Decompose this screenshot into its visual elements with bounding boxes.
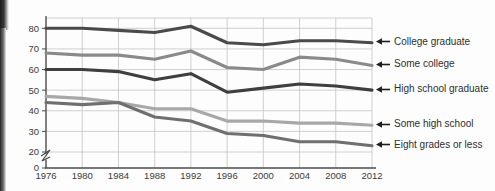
svg-text:2004: 2004 bbox=[289, 170, 310, 181]
legend-item-label: College graduate bbox=[394, 37, 470, 47]
series-line-0 bbox=[46, 26, 372, 45]
series-line-2 bbox=[46, 70, 372, 93]
svg-text:20: 20 bbox=[28, 146, 39, 157]
series-line-1 bbox=[46, 51, 372, 70]
arrow-left-icon bbox=[376, 85, 390, 94]
svg-text:1980: 1980 bbox=[72, 170, 93, 181]
arrow-left-icon bbox=[376, 140, 390, 149]
legend-item-label: Some high school bbox=[394, 119, 474, 129]
legend-item-0[interactable]: College graduate bbox=[376, 37, 470, 47]
svg-text:70: 70 bbox=[28, 43, 39, 54]
data-series-group bbox=[46, 26, 372, 146]
chart-figure: 020304050607080 197619801984198819921996… bbox=[0, 0, 495, 191]
svg-text:2000: 2000 bbox=[253, 170, 274, 181]
svg-text:30: 30 bbox=[28, 126, 39, 137]
arrow-left-icon bbox=[376, 60, 390, 69]
legend-item-label: Eight grades or less bbox=[394, 140, 482, 150]
svg-text:40: 40 bbox=[28, 105, 39, 116]
legend-item-1[interactable]: Some college bbox=[376, 59, 455, 69]
x-tick-labels: 1976198019841988199219962000200420082012 bbox=[35, 170, 382, 181]
y-axis bbox=[42, 16, 46, 168]
legend-item-label: Some college bbox=[394, 59, 455, 69]
legend-item-2[interactable]: High school graduate bbox=[376, 84, 489, 94]
arrow-left-icon bbox=[376, 120, 390, 129]
legend-item-label: High school graduate bbox=[394, 84, 489, 94]
y-tick-labels: 020304050607080 bbox=[28, 23, 39, 174]
legend-item-3[interactable]: Some high school bbox=[376, 119, 474, 129]
svg-text:1992: 1992 bbox=[180, 170, 201, 181]
svg-text:2008: 2008 bbox=[325, 170, 346, 181]
svg-text:1988: 1988 bbox=[144, 170, 165, 181]
svg-text:1984: 1984 bbox=[108, 170, 129, 181]
svg-text:1996: 1996 bbox=[217, 170, 238, 181]
svg-text:80: 80 bbox=[28, 23, 39, 34]
svg-text:50: 50 bbox=[28, 85, 39, 96]
svg-text:60: 60 bbox=[28, 64, 39, 75]
svg-text:2012: 2012 bbox=[361, 170, 382, 181]
svg-text:1976: 1976 bbox=[35, 170, 56, 181]
arrow-left-icon bbox=[376, 37, 390, 46]
legend-item-4[interactable]: Eight grades or less bbox=[376, 140, 482, 150]
line-chart: 020304050607080 197619801984198819921996… bbox=[0, 0, 495, 191]
